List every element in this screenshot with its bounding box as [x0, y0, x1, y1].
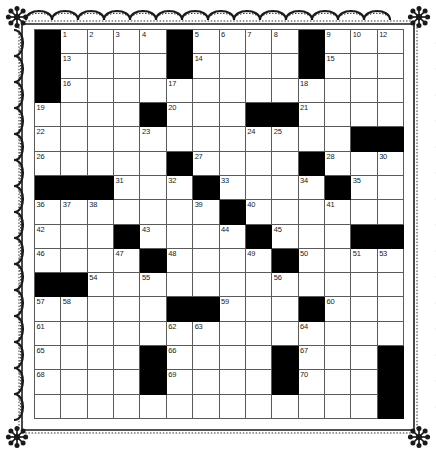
- grid-letter-cell[interactable]: 54: [88, 273, 114, 297]
- grid-letter-cell[interactable]: [140, 54, 166, 78]
- grid-letter-cell[interactable]: 35: [351, 176, 377, 200]
- grid-letter-cell[interactable]: 43: [140, 225, 166, 249]
- grid-letter-cell[interactable]: [167, 127, 193, 151]
- grid-letter-cell[interactable]: [246, 79, 272, 103]
- grid-letter-cell[interactable]: 30: [378, 152, 404, 176]
- grid-letter-cell[interactable]: [140, 200, 166, 224]
- grid-letter-cell[interactable]: 46: [35, 249, 61, 273]
- grid-letter-cell[interactable]: [220, 103, 246, 127]
- grid-letter-cell[interactable]: 38: [88, 200, 114, 224]
- grid-letter-cell[interactable]: [114, 127, 140, 151]
- grid-letter-cell[interactable]: 59: [220, 297, 246, 321]
- grid-letter-cell[interactable]: 12: [378, 30, 404, 54]
- grid-letter-cell[interactable]: [325, 395, 351, 419]
- grid-letter-cell[interactable]: 4: [140, 30, 166, 54]
- grid-letter-cell[interactable]: [140, 297, 166, 321]
- grid-letter-cell[interactable]: 55: [140, 273, 166, 297]
- grid-letter-cell[interactable]: [246, 273, 272, 297]
- grid-letter-cell[interactable]: [88, 249, 114, 273]
- grid-letter-cell[interactable]: [351, 370, 377, 394]
- grid-letter-cell[interactable]: [272, 200, 298, 224]
- grid-letter-cell[interactable]: [220, 127, 246, 151]
- grid-letter-cell[interactable]: [167, 395, 193, 419]
- grid-letter-cell[interactable]: [167, 225, 193, 249]
- grid-letter-cell[interactable]: [220, 395, 246, 419]
- grid-letter-cell[interactable]: [193, 395, 219, 419]
- grid-letter-cell[interactable]: 69: [167, 370, 193, 394]
- grid-letter-cell[interactable]: [299, 200, 325, 224]
- grid-letter-cell[interactable]: 51: [351, 249, 377, 273]
- grid-letter-cell[interactable]: [246, 152, 272, 176]
- grid-letter-cell[interactable]: [325, 103, 351, 127]
- grid-letter-cell[interactable]: 63: [193, 322, 219, 346]
- grid-letter-cell[interactable]: [325, 322, 351, 346]
- grid-letter-cell[interactable]: 50: [299, 249, 325, 273]
- grid-letter-cell[interactable]: [299, 225, 325, 249]
- grid-letter-cell[interactable]: 70: [299, 370, 325, 394]
- grid-letter-cell[interactable]: [114, 346, 140, 370]
- grid-letter-cell[interactable]: [88, 103, 114, 127]
- grid-letter-cell[interactable]: 33: [220, 176, 246, 200]
- grid-letter-cell[interactable]: 36: [35, 200, 61, 224]
- grid-letter-cell[interactable]: [114, 370, 140, 394]
- grid-letter-cell[interactable]: [378, 297, 404, 321]
- grid-letter-cell[interactable]: 48: [167, 249, 193, 273]
- grid-letter-cell[interactable]: [193, 370, 219, 394]
- grid-letter-cell[interactable]: [193, 225, 219, 249]
- grid-letter-cell[interactable]: [351, 273, 377, 297]
- crossword-grid-container[interactable]: 1234567891012131415161718192021222324252…: [34, 29, 404, 419]
- grid-letter-cell[interactable]: [378, 54, 404, 78]
- grid-letter-cell[interactable]: [114, 152, 140, 176]
- grid-letter-cell[interactable]: [351, 395, 377, 419]
- grid-letter-cell[interactable]: [272, 79, 298, 103]
- grid-letter-cell[interactable]: 14: [193, 54, 219, 78]
- grid-letter-cell[interactable]: 18: [299, 79, 325, 103]
- grid-letter-cell[interactable]: [193, 346, 219, 370]
- grid-letter-cell[interactable]: [88, 346, 114, 370]
- grid-letter-cell[interactable]: [61, 225, 87, 249]
- grid-letter-cell[interactable]: 27: [193, 152, 219, 176]
- grid-letter-cell[interactable]: [272, 297, 298, 321]
- grid-letter-cell[interactable]: [88, 395, 114, 419]
- grid-letter-cell[interactable]: [220, 322, 246, 346]
- grid-letter-cell[interactable]: 44: [220, 225, 246, 249]
- grid-letter-cell[interactable]: [325, 370, 351, 394]
- grid-letter-cell[interactable]: [220, 152, 246, 176]
- grid-letter-cell[interactable]: [114, 54, 140, 78]
- grid-letter-cell[interactable]: [325, 225, 351, 249]
- grid-letter-cell[interactable]: 31: [114, 176, 140, 200]
- grid-letter-cell[interactable]: 57: [35, 297, 61, 321]
- grid-letter-cell[interactable]: [378, 103, 404, 127]
- grid-letter-cell[interactable]: [272, 54, 298, 78]
- grid-letter-cell[interactable]: [61, 249, 87, 273]
- grid-letter-cell[interactable]: 32: [167, 176, 193, 200]
- grid-letter-cell[interactable]: [351, 346, 377, 370]
- grid-letter-cell[interactable]: [246, 322, 272, 346]
- grid-letter-cell[interactable]: [193, 249, 219, 273]
- grid-letter-cell[interactable]: [114, 273, 140, 297]
- grid-letter-cell[interactable]: [88, 322, 114, 346]
- grid-letter-cell[interactable]: [246, 370, 272, 394]
- grid-letter-cell[interactable]: [114, 79, 140, 103]
- grid-letter-cell[interactable]: [325, 249, 351, 273]
- grid-letter-cell[interactable]: [272, 395, 298, 419]
- grid-letter-cell[interactable]: [114, 322, 140, 346]
- grid-letter-cell[interactable]: [325, 273, 351, 297]
- grid-letter-cell[interactable]: [140, 176, 166, 200]
- grid-letter-cell[interactable]: 47: [114, 249, 140, 273]
- grid-letter-cell[interactable]: [61, 346, 87, 370]
- grid-letter-cell[interactable]: 40: [246, 200, 272, 224]
- grid-letter-cell[interactable]: [220, 249, 246, 273]
- grid-letter-cell[interactable]: [246, 346, 272, 370]
- grid-letter-cell[interactable]: [246, 54, 272, 78]
- grid-letter-cell[interactable]: [193, 79, 219, 103]
- grid-letter-cell[interactable]: 5: [193, 30, 219, 54]
- grid-letter-cell[interactable]: [61, 103, 87, 127]
- grid-letter-cell[interactable]: [61, 395, 87, 419]
- grid-letter-cell[interactable]: [272, 176, 298, 200]
- grid-letter-cell[interactable]: [351, 79, 377, 103]
- grid-letter-cell[interactable]: [61, 322, 87, 346]
- grid-letter-cell[interactable]: [378, 200, 404, 224]
- grid-letter-cell[interactable]: 34: [299, 176, 325, 200]
- grid-letter-cell[interactable]: [88, 297, 114, 321]
